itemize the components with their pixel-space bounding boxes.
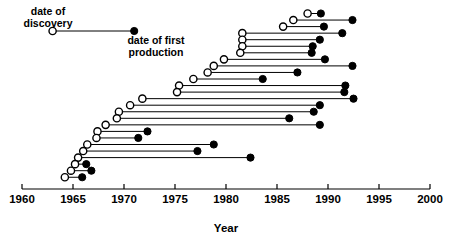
production-point-marker — [294, 69, 301, 76]
timeline-row — [290, 16, 356, 23]
production-point-marker — [316, 121, 323, 128]
legend-production-label-line2: production — [129, 46, 184, 58]
production-point-marker — [194, 147, 201, 154]
x-axis-title: Year — [214, 222, 239, 234]
discovery-point-marker — [113, 115, 120, 122]
discovery-point-marker — [84, 141, 91, 148]
x-axis-tick-label: 1975 — [162, 193, 188, 205]
timeline-row — [94, 128, 151, 135]
discovery-point-marker — [93, 134, 100, 141]
x-axis-tick-label: 1970 — [111, 193, 137, 205]
discovery-point-marker — [127, 102, 134, 109]
x-axis-tick-label: 1985 — [264, 193, 290, 205]
timeline-dumbbell-chart: date of discovery date of first producti… — [0, 0, 453, 242]
discovery-point-marker — [71, 161, 78, 168]
production-point-marker — [316, 36, 323, 43]
discovery-point-marker — [204, 69, 211, 76]
discovery-point-marker — [102, 121, 109, 128]
x-axis: 196019651970197519801985199019952000 — [9, 184, 443, 205]
timeline-row — [102, 121, 323, 128]
production-point-marker — [317, 10, 324, 17]
production-point-marker — [247, 154, 254, 161]
timeline-row — [61, 174, 86, 181]
production-point-marker — [79, 174, 86, 181]
production-point-marker — [321, 56, 328, 63]
production-point-marker — [144, 128, 151, 135]
x-axis-tick-label: 1965 — [60, 193, 86, 205]
production-point-marker — [341, 89, 348, 96]
data-rows-group — [61, 10, 357, 181]
timeline-row — [127, 102, 324, 109]
discovery-point-marker — [304, 10, 311, 17]
timeline-row — [71, 161, 89, 168]
x-axis-tick-label: 1980 — [213, 193, 239, 205]
discovery-point-marker — [190, 75, 197, 82]
discovery-point-marker — [67, 167, 74, 174]
x-axis-tick-label: 1960 — [9, 193, 35, 205]
timeline-row — [113, 115, 293, 122]
timeline-row — [204, 69, 301, 76]
timeline-row — [239, 30, 346, 37]
timeline-row — [304, 10, 324, 17]
legend-discovery-label-line2: discovery — [23, 17, 72, 29]
timeline-row — [139, 95, 357, 102]
production-point-marker — [88, 167, 95, 174]
production-point-marker — [339, 30, 346, 37]
timeline-row — [115, 108, 317, 115]
timeline-row — [93, 134, 142, 141]
timeline-row — [210, 62, 356, 69]
production-point-marker — [309, 43, 316, 50]
timeline-row — [239, 43, 317, 50]
production-point-marker — [320, 23, 327, 30]
timeline-row — [239, 36, 324, 43]
legend-discovery-label-line1: date of — [31, 5, 66, 17]
timeline-row — [67, 167, 95, 174]
production-point-marker — [135, 134, 142, 141]
production-point-marker — [350, 95, 357, 102]
timeline-row — [237, 49, 316, 56]
production-point-marker — [349, 16, 356, 23]
discovery-point-marker — [139, 95, 146, 102]
timeline-row — [75, 154, 255, 161]
production-point-marker — [310, 108, 317, 115]
production-point-marker — [349, 62, 356, 69]
timeline-row — [80, 147, 201, 154]
discovery-point-marker — [290, 16, 297, 23]
x-axis-tick-label: 2000 — [417, 193, 443, 205]
timeline-row — [173, 89, 347, 96]
discovery-point-marker — [80, 147, 87, 154]
production-point-marker — [83, 161, 90, 168]
production-point-marker — [210, 141, 217, 148]
production-point-marker — [316, 102, 323, 109]
x-axis-tick-label: 1995 — [366, 193, 392, 205]
timeline-row — [280, 23, 328, 30]
discovery-point-marker — [173, 89, 180, 96]
production-point-marker — [286, 115, 293, 122]
discovery-point-marker — [280, 23, 287, 30]
timeline-row — [190, 75, 267, 82]
discovery-point-marker — [210, 62, 217, 69]
legend-production-label-line1: date of first — [127, 34, 185, 46]
discovery-point-marker — [220, 56, 227, 63]
production-point-marker — [342, 82, 349, 89]
discovery-point-marker — [237, 49, 244, 56]
discovery-point-marker — [61, 174, 68, 181]
chart-container: date of discovery date of first producti… — [0, 0, 453, 242]
x-axis-tick-label: 1990 — [315, 193, 341, 205]
production-point-marker — [308, 49, 315, 56]
production-point-marker — [259, 75, 266, 82]
